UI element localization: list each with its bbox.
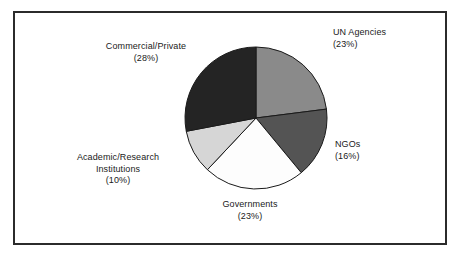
pie-label-un-agencies-name: UN Agencies	[333, 27, 386, 39]
pie-label-academic-research-institutions: Academic/Research Institutions (10%)	[54, 152, 182, 187]
pie-label-academic-percent: (10%)	[54, 175, 182, 187]
pie-label-academic-name-line1: Academic/Research	[54, 152, 182, 164]
pie-label-ngos: NGOs (16%)	[335, 139, 360, 162]
pie-slice-un-agencies	[256, 47, 326, 118]
pie-label-commercial-private: Commercial/Private (28%)	[85, 41, 207, 64]
pie-label-ngos-percent: (16%)	[335, 151, 360, 163]
pie-label-academic-name-line2: Institutions	[54, 164, 182, 176]
pie-label-governments-name: Governments	[191, 199, 309, 211]
pie-label-un-agencies-percent: (23%)	[333, 39, 386, 51]
pie-label-governments-percent: (23%)	[191, 211, 309, 223]
pie-label-governments: Governments (23%)	[191, 199, 309, 222]
pie-plot-area: UN Agencies (23%) NGOs (16%) Governments…	[0, 0, 463, 261]
pie-slice-group	[185, 47, 327, 189]
pie-chart-figure: UN Agencies (23%) NGOs (16%) Governments…	[0, 0, 463, 261]
pie-label-ngos-name: NGOs	[335, 139, 360, 151]
pie-label-commercial-percent: (28%)	[85, 53, 207, 65]
pie-label-commercial-name: Commercial/Private	[85, 41, 207, 53]
pie-label-un-agencies: UN Agencies (23%)	[333, 27, 386, 50]
